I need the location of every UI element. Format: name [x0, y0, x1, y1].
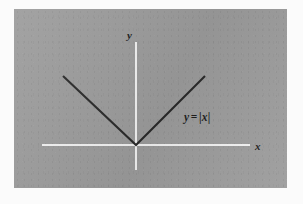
equation-annotation: y=|x|	[184, 112, 211, 124]
y-axis-label: y	[127, 30, 132, 41]
x-axis-label: x	[255, 141, 261, 152]
equation-operator: =	[189, 111, 199, 123]
absolute-value-curve	[14, 9, 287, 188]
equation-close-bar: |	[208, 111, 211, 123]
figure-root: y x y=|x|	[0, 0, 303, 204]
plot-panel: y x y=|x|	[14, 9, 287, 188]
